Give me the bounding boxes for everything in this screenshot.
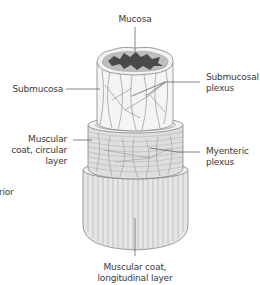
label-longitudinal-layer: Muscular coat, longitudinal layer <box>80 262 190 284</box>
label-circular-line2: coat, circular <box>0 145 67 156</box>
label-myenteric-line2: plexus <box>206 157 249 168</box>
intestinal-wall-diagram: Mucosa Submucosa Submucosal plexus Muscu… <box>0 0 260 285</box>
label-submucosal-plexus: Submucosal plexus <box>206 72 259 94</box>
label-circular-line3: layer <box>0 156 67 167</box>
label-submucosal-plexus-line1: Submucosal <box>206 72 259 83</box>
label-submucosal-plexus-line2: plexus <box>206 83 259 94</box>
label-myenteric-line1: Myenteric <box>206 146 249 157</box>
label-circular-line1: Muscular <box>0 134 67 145</box>
label-cropped-left: rior <box>0 187 14 198</box>
label-myenteric-plexus: Myenteric plexus <box>206 146 249 168</box>
label-circular-layer: Muscular coat, circular layer <box>0 134 67 167</box>
label-mucosa: Mucosa <box>110 14 160 25</box>
label-longitudinal-line1: Muscular coat, <box>80 262 190 273</box>
label-longitudinal-line2: longitudinal layer <box>80 273 190 284</box>
label-submucosa: Submucosa <box>10 84 63 95</box>
